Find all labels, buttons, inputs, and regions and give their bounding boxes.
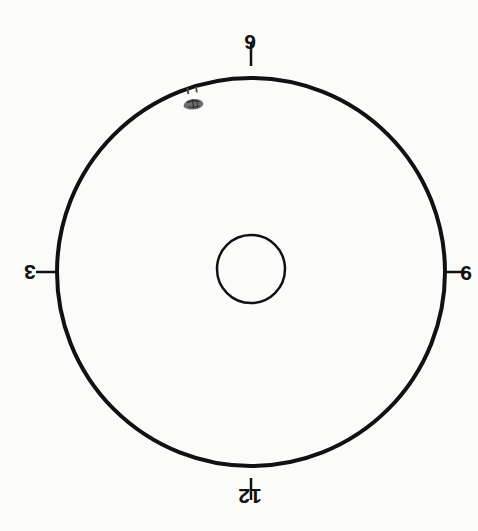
- clock-dial-svg: [0, 0, 478, 531]
- dial-label-top: 9: [232, 31, 268, 52]
- clock-face-diagram: 9 6 12 3: [0, 0, 478, 531]
- dial-label-left: 3: [14, 262, 46, 283]
- outer-dial-circle: [57, 78, 445, 466]
- dial-label-bottom: 12: [228, 486, 272, 507]
- center-hub-circle: [217, 235, 285, 303]
- pencil-smudge-icon: [181, 86, 215, 118]
- dial-label-right: 6: [452, 262, 478, 283]
